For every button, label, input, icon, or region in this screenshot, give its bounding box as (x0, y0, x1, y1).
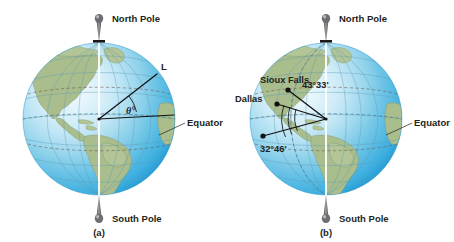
sioux-falls-latitude-label: 43°33' (302, 80, 329, 90)
earth-center-point (324, 117, 327, 120)
landmass-africa-limb (158, 103, 182, 145)
globe-diagram-b: North Pole South Pole Equator Sioux Fall… (227, 0, 454, 242)
panel-b-caption: (b) (320, 227, 332, 238)
figure-root: North Pole South Pole Equator L θ° (a) (0, 0, 454, 242)
equator-label: Equator (414, 117, 450, 128)
south-pole-label: South Pole (112, 213, 162, 224)
equator-label: Equator (187, 117, 223, 128)
panel-a-caption: (a) (93, 227, 105, 238)
dallas-latitude-label: 32°46' (260, 144, 287, 154)
angle-label-theta: θ° (126, 105, 135, 116)
dallas-label: Dallas (235, 94, 262, 104)
earth-center-point (97, 117, 100, 120)
north-pole-pin (93, 14, 105, 43)
south-pole-pin (322, 195, 330, 223)
panel-a: North Pole South Pole Equator L θ° (a) (0, 0, 227, 242)
south-pole-label: South Pole (339, 213, 389, 224)
radius-label-L: L (161, 61, 167, 72)
city-dot-equator-point (260, 133, 265, 138)
north-pole-label: North Pole (339, 13, 387, 24)
landmass-africa-limb (385, 103, 409, 145)
north-pole-pin (320, 14, 332, 43)
panel-b: North Pole South Pole Equator Sioux Fall… (227, 0, 454, 242)
globe-diagram-a: North Pole South Pole Equator L θ° (a) (0, 0, 227, 242)
city-dot-dallas (274, 101, 279, 106)
city-dot-sioux-falls (285, 87, 290, 92)
north-pole-label: North Pole (112, 13, 160, 24)
south-pole-pin (95, 195, 103, 223)
